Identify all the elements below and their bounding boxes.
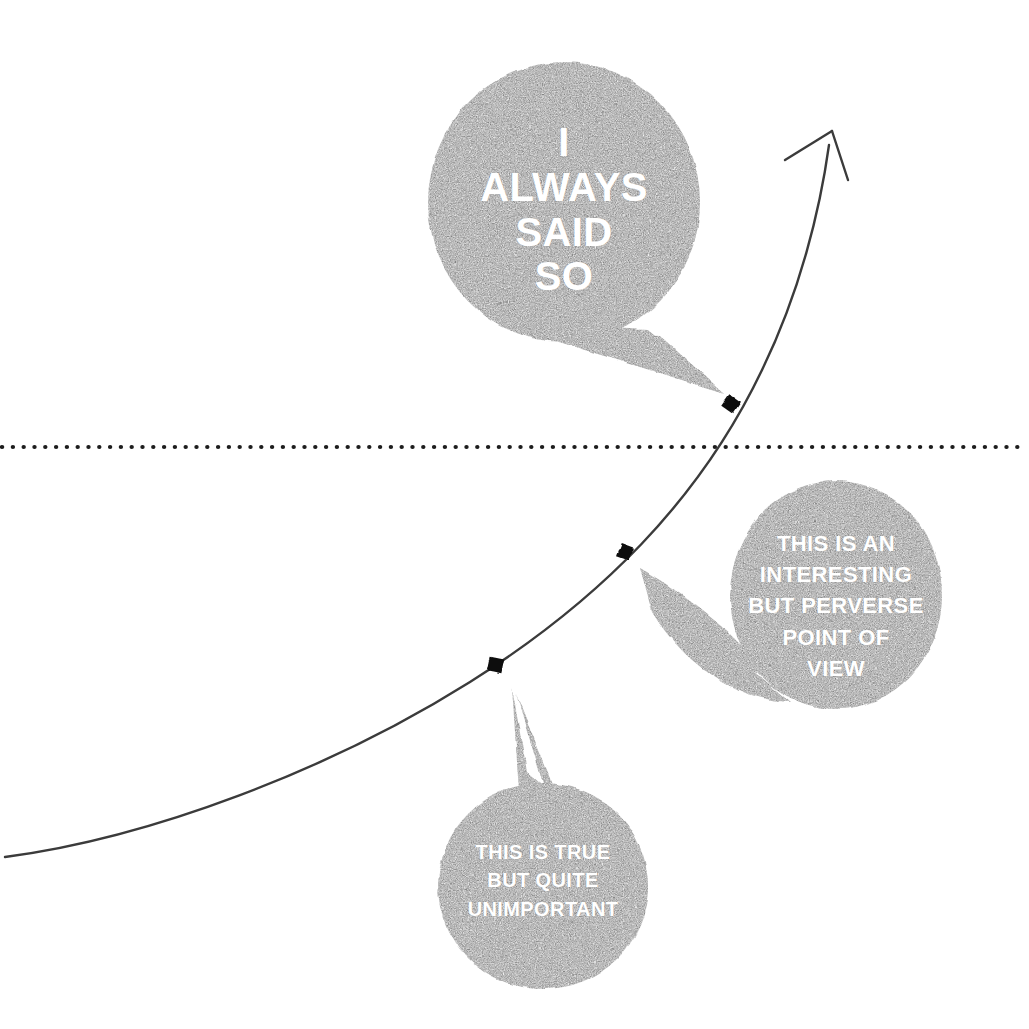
- marker-point-low: [488, 657, 505, 674]
- speech-bubble-right: [640, 481, 942, 709]
- marker-point-mid: [616, 543, 634, 561]
- marker-point-high: [721, 394, 740, 413]
- speech-bubble-bottom: [438, 688, 648, 989]
- speech-bubble-top: [428, 62, 724, 393]
- exponential-curve-illustration: [0, 0, 1029, 1029]
- illustration-canvas: I ALWAYS SAID SO THIS IS AN INTERESTING …: [0, 0, 1029, 1029]
- growth-curve: [5, 131, 848, 857]
